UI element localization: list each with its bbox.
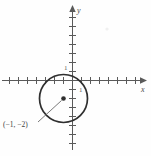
y-axis-label: y <box>76 6 81 15</box>
center-point-marker <box>61 96 66 101</box>
x-unit-tick-label: 1 <box>79 86 83 94</box>
x-axis-arrow-icon <box>140 77 147 83</box>
y-axis-arrow-icon <box>69 5 75 12</box>
y-unit-tick-label: 1 <box>64 64 68 72</box>
center-point-label: (−1, −2) <box>3 120 28 129</box>
x-axis-label: x <box>140 85 145 94</box>
scan-speck-artifact <box>105 27 108 30</box>
coordinate-plane-figure: y x 1 1 (−1, −2) <box>0 0 151 156</box>
figure-canvas: y x 1 1 (−1, −2) <box>0 0 151 156</box>
